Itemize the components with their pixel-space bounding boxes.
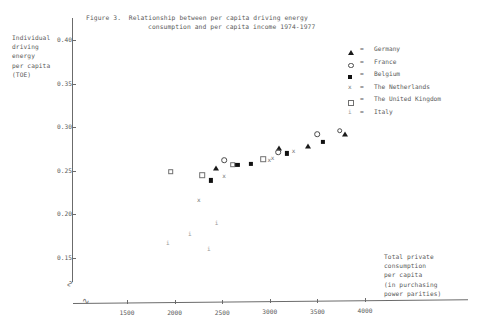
y-tick-mark	[72, 171, 76, 172]
legend-filled-triangle-icon	[348, 50, 354, 55]
data-point-germany	[342, 132, 348, 137]
legend-item-italy: i=Italy	[342, 107, 474, 120]
data-point-belgium	[209, 178, 213, 182]
legend-letter-x-icon: x	[348, 84, 352, 90]
legend-equals-sign: =	[360, 108, 364, 115]
y-axis-break-icon: ∿	[65, 280, 75, 288]
data-point-the-united-kingdom	[260, 157, 266, 163]
legend-letter-i-icon: i	[348, 109, 352, 115]
x-tick-label: 3000	[250, 308, 290, 315]
legend-open-circle-icon	[348, 63, 354, 69]
y-tick-mark	[72, 258, 76, 259]
y-tick-label: 0.30	[36, 123, 72, 130]
legend-item-netherlands: x=The Netherlands	[342, 82, 474, 95]
legend: =Germany=France=Belgiumx=The Netherlands…	[342, 44, 474, 120]
x-tick-label-wrap: 2500	[202, 303, 242, 313]
y-tick-label: 0.35	[36, 80, 72, 87]
y-tick-label-wrap: 0.30	[30, 123, 72, 131]
legend-label-italy: Italy	[374, 108, 393, 115]
legend-equals-sign: =	[360, 70, 364, 77]
data-point-germany	[213, 166, 219, 171]
legend-open-square-icon	[348, 100, 354, 106]
y-tick-label: 0.20	[36, 210, 72, 217]
x-tick-label-wrap: 3500	[297, 302, 337, 312]
legend-item-uk: =The United Kingdom	[342, 94, 474, 107]
figure-page: Figure 3. Relationship between per capit…	[0, 0, 477, 331]
y-tick-mark	[72, 214, 76, 215]
legend-label-uk: The United Kingdom	[374, 95, 441, 102]
y-tick-label-wrap: 0.25	[30, 167, 72, 175]
data-point-belgium	[235, 163, 239, 167]
x-tick-label: 3500	[297, 308, 337, 315]
data-point-the-united-kingdom	[168, 169, 174, 175]
data-point-the-netherlands: x	[222, 173, 226, 179]
y-tick-label: 0.40	[36, 36, 72, 43]
legend-equals-sign: =	[360, 83, 364, 90]
data-point-the-netherlands: x	[292, 148, 296, 154]
x-tick-label: 4000	[345, 307, 385, 314]
data-point-italy: i	[188, 231, 192, 237]
data-point-the-united-kingdom	[199, 172, 205, 178]
x-tick-label: 2500	[202, 309, 242, 316]
data-point-the-netherlands: x	[271, 155, 275, 161]
y-tick-mark	[72, 127, 76, 128]
y-tick-label-wrap: 0.15	[30, 254, 72, 262]
y-tick-mark	[72, 40, 76, 41]
data-point-france	[276, 150, 282, 156]
legend-equals-sign: =	[360, 95, 364, 102]
legend-equals-sign: =	[360, 58, 364, 65]
legend-label-netherlands: The Netherlands	[374, 83, 430, 90]
x-tick-label-wrap: 3000	[250, 302, 290, 312]
x-tick-label: 2000	[155, 309, 195, 316]
y-tick-label: 0.15	[36, 254, 72, 261]
legend-item-germany: =Germany	[342, 44, 474, 57]
data-point-france	[221, 158, 227, 164]
legend-label-germany: Germany	[374, 45, 400, 52]
legend-label-france: France	[374, 58, 396, 65]
data-point-germany	[305, 143, 311, 148]
legend-filled-square-icon	[348, 75, 352, 79]
y-tick-label-wrap: 0.20	[30, 210, 72, 218]
y-tick-label: 0.25	[36, 167, 72, 174]
data-point-belgium	[285, 151, 289, 155]
y-axis-line	[72, 18, 73, 282]
data-point-the-netherlands: x	[197, 197, 201, 203]
data-point-belgium	[321, 140, 325, 144]
legend-equals-sign: =	[360, 45, 364, 52]
data-point-the-united-kingdom	[230, 162, 236, 168]
data-point-italy: i	[207, 246, 211, 252]
x-tick-label-wrap: 2000	[155, 303, 195, 313]
y-tick-label-wrap: 0.35	[30, 80, 72, 88]
data-point-italy: i	[166, 240, 170, 246]
x-tick-label-wrap: 1500	[107, 303, 147, 313]
data-point-belgium	[249, 162, 253, 166]
y-tick-mark	[72, 84, 76, 85]
x-axis-break-icon: ∿	[82, 296, 90, 306]
legend-item-france: =France	[342, 57, 474, 70]
legend-label-belgium: Belgium	[374, 70, 400, 77]
legend-item-belgium: =Belgium	[342, 69, 474, 82]
y-tick-label-wrap: 0.40	[30, 36, 72, 44]
data-point-italy: i	[215, 220, 219, 226]
x-tick-label-wrap: 4000	[345, 301, 385, 311]
data-point-france	[337, 128, 343, 134]
data-point-france	[315, 131, 321, 137]
x-tick-label: 1500	[107, 309, 147, 316]
